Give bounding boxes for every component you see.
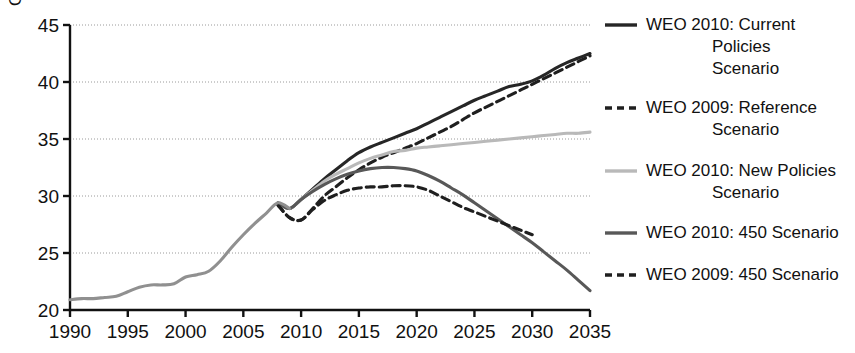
- legend-line-swatch-icon: [604, 226, 638, 240]
- series-line: [278, 132, 590, 208]
- x-tick-label: 2025: [444, 322, 504, 341]
- y-tick-label: 25: [13, 244, 59, 263]
- y-tick-label: 40: [13, 73, 59, 92]
- legend-label: WEO 2010: New PoliciesScenario: [646, 160, 851, 204]
- chart-axes: [70, 25, 590, 310]
- legend-label: WEO 2009: ReferenceScenario: [646, 97, 851, 141]
- y-tick-label: 45: [13, 16, 59, 35]
- legend-label-line: WEO 2010: 450 Scenario: [646, 222, 851, 244]
- series-line: [278, 167, 590, 290]
- legend-label-line: Scenario: [646, 182, 851, 204]
- legend-entry[interactable]: WEO 2010: New PoliciesScenario: [604, 160, 851, 204]
- x-tick-label: 2020: [387, 322, 447, 341]
- x-tick-label: 2010: [271, 322, 331, 341]
- legend-entry[interactable]: WEO 2009: 450 Scenario: [604, 264, 851, 286]
- legend-label-line: WEO 2010: New Policies: [646, 160, 851, 182]
- x-tick-label: 2030: [502, 322, 562, 341]
- legend-entry[interactable]: WEO 2010: 450 Scenario: [604, 222, 851, 244]
- legend-line-swatch-icon: [604, 18, 638, 32]
- series-line: [70, 203, 290, 300]
- legend-label: WEO 2010: CurrentPoliciesScenario: [646, 14, 851, 80]
- legend-label-line: Scenario: [646, 119, 851, 141]
- series-line: [278, 186, 532, 235]
- x-tick-label: 2005: [213, 322, 273, 341]
- x-tick-label: 1995: [98, 322, 158, 341]
- chart-svg: [0, 0, 600, 353]
- chart-screenshot: Gt 202530354045 199019952000200520102015…: [0, 0, 855, 353]
- legend-label-line: WEO 2009: 450 Scenario: [646, 264, 851, 286]
- legend-entry[interactable]: WEO 2010: CurrentPoliciesScenario: [604, 14, 851, 80]
- legend-label-line: WEO 2010: Current: [646, 14, 851, 36]
- x-tick-label: 2015: [329, 322, 389, 341]
- y-tick-label: 20: [13, 301, 59, 320]
- legend-label-line: WEO 2009: Reference: [646, 97, 851, 119]
- legend-line-swatch-icon: [604, 164, 638, 178]
- x-tick-label: 2000: [156, 322, 216, 341]
- chart-plot-area: Gt 202530354045 199019952000200520102015…: [0, 0, 600, 353]
- legend-line-swatch-icon: [604, 268, 638, 282]
- legend-label-line: Scenario: [646, 58, 851, 80]
- x-tick-label: 1990: [40, 322, 100, 341]
- y-tick-label: 35: [13, 130, 59, 149]
- chart-legend: WEO 2010: CurrentPoliciesScenarioWEO 200…: [604, 0, 855, 353]
- legend-entry[interactable]: WEO 2009: ReferenceScenario: [604, 97, 851, 141]
- legend-label-line: Policies: [646, 36, 851, 58]
- legend-label: WEO 2009: 450 Scenario: [646, 264, 851, 286]
- legend-line-swatch-icon: [604, 101, 638, 115]
- legend-label: WEO 2010: 450 Scenario: [646, 222, 851, 244]
- y-tick-label: 30: [13, 187, 59, 206]
